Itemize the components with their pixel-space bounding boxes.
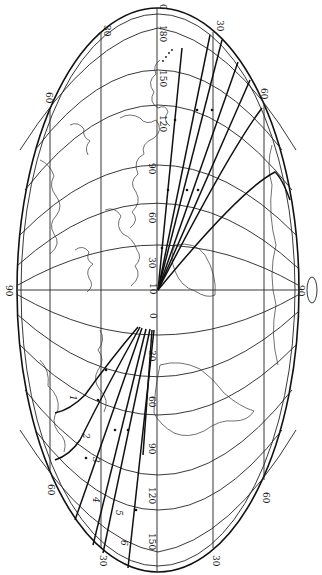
- label-top-meridian-left: 30: [102, 25, 112, 37]
- label-arc-60-top: 60: [147, 212, 157, 224]
- label-bottom-right-30: 30: [211, 555, 221, 567]
- route-label-2: 2: [81, 432, 91, 439]
- label-arc-30-bottom: 30: [147, 350, 157, 362]
- label-center-0: 0: [148, 313, 158, 319]
- route-label-4: 4: [91, 496, 101, 503]
- label-lower-left-60: 60: [46, 484, 56, 496]
- route-label-1: 1: [68, 395, 78, 401]
- label-center-10: 10: [148, 283, 158, 295]
- label-bottom-left-30: 30: [98, 555, 108, 567]
- route-1: [55, 327, 138, 413]
- route-label-5: 5: [114, 510, 124, 516]
- world-map: 0 30 180 30 150 120 90 60 30 10 0 30 60 …: [0, 0, 322, 575]
- label-arc-90-top: 90: [147, 163, 157, 175]
- route-3: [75, 328, 142, 520]
- route-label-3: 3: [91, 457, 101, 463]
- orbit-ellipse-icon: [307, 277, 317, 303]
- label-arc-150-top: 150: [158, 70, 168, 87]
- label-arc-30-top: 30: [147, 257, 157, 269]
- route-label-6: 6: [119, 540, 129, 546]
- parallel-arcs-upper: [18, 28, 298, 285]
- label-arc-150-bottom: 150: [147, 533, 157, 550]
- label-right-90: 90: [296, 285, 306, 297]
- label-upper-right-60: 60: [259, 88, 269, 100]
- label-arc-60-bottom: 60: [147, 396, 157, 408]
- label-top-meridian-right: 30: [215, 20, 225, 32]
- dotted-trail: [162, 49, 173, 62]
- label-lower-right-60: 60: [261, 492, 271, 504]
- label-arc-120-bottom: 120: [147, 487, 157, 504]
- label-arc-120-top: 120: [158, 115, 168, 132]
- label-top-pole: 0: [158, 4, 168, 10]
- label-arc-90-bottom: 90: [147, 443, 157, 455]
- parallel-arcs-lower: [18, 295, 298, 552]
- label-left-90: 90: [4, 285, 14, 297]
- label-top-meridian-center: 180: [158, 25, 168, 42]
- label-upper-left-60: 60: [44, 92, 54, 104]
